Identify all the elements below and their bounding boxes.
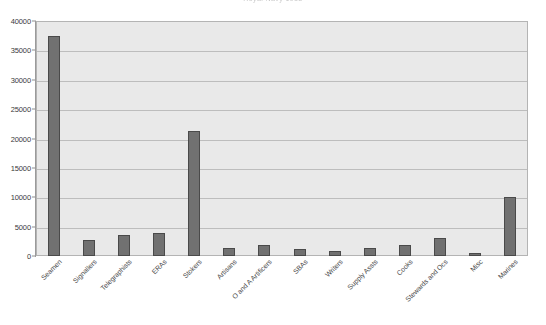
bar xyxy=(83,240,95,256)
bar xyxy=(258,245,270,256)
bar xyxy=(294,249,306,256)
x-axis-tick-label: SBAs xyxy=(291,258,308,275)
x-axis-tick-label: O and A Artificers xyxy=(231,258,273,300)
x-axis-tick-label: Telegraphists xyxy=(99,258,133,292)
bars-layer xyxy=(36,21,528,256)
x-axis-tick-label: Writers xyxy=(323,258,343,278)
bar xyxy=(364,248,376,256)
y-axis-tick-label: 35000 xyxy=(11,46,31,55)
bar xyxy=(118,235,130,256)
x-axis-tick-label: Cooks xyxy=(395,258,414,277)
y-axis-tick-label: 0 xyxy=(27,252,31,261)
y-axis-tick-label: 25000 xyxy=(11,105,31,114)
y-axis-tick-label: 30000 xyxy=(11,75,31,84)
x-axis-tick-label: Seamen xyxy=(39,258,62,281)
bar xyxy=(48,36,60,256)
bar xyxy=(223,248,235,256)
x-axis-tick-label: Supply Assts xyxy=(346,258,379,291)
bar xyxy=(153,233,165,256)
y-axis-tick-label: 15000 xyxy=(11,163,31,172)
bar-chart-figure: Royal Navy 1918 050001000015000200002500… xyxy=(0,0,546,325)
x-axis-tick-label: ERAs xyxy=(150,258,167,275)
x-axis-tick-label: Marines xyxy=(497,258,519,280)
x-axis-tick-label: Signallers xyxy=(71,258,97,284)
y-axis-tick-label: 10000 xyxy=(11,193,31,202)
bar xyxy=(188,131,200,256)
bar xyxy=(504,197,516,256)
y-axis-tick-label: 20000 xyxy=(11,134,31,143)
chart-title: Royal Navy 1918 xyxy=(0,0,546,4)
x-axis-labels: SeamenSignallersTelegraphistsERAsStokers… xyxy=(36,258,528,324)
y-axis: 0500010000150002000025000300003500040000 xyxy=(0,21,36,257)
bar xyxy=(329,251,341,256)
bar xyxy=(434,238,446,256)
bar xyxy=(469,253,481,256)
bar xyxy=(399,245,411,256)
y-axis-tick-label: 40000 xyxy=(11,17,31,26)
x-axis-tick-label: Stokers xyxy=(182,258,203,279)
x-axis-tick-label: Artisans xyxy=(216,258,239,281)
y-axis-tick-label: 5000 xyxy=(15,222,31,231)
x-axis-tick-label: Misc xyxy=(469,258,484,273)
